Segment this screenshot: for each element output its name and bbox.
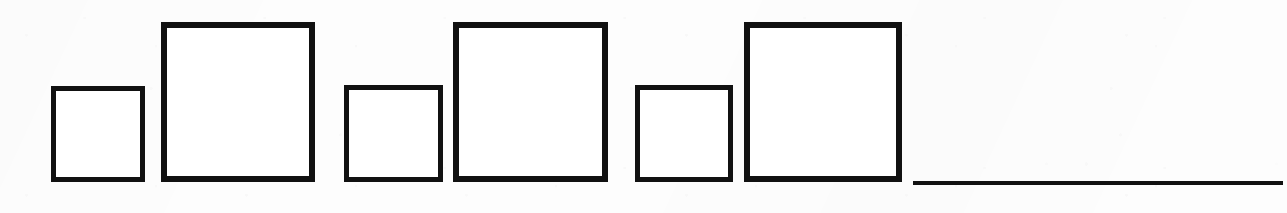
square-3-small: [344, 85, 443, 182]
figure-canvas: [0, 0, 1287, 213]
square-5-small: [635, 85, 733, 182]
horizontal-rule: [913, 181, 1283, 185]
square-6-large: [744, 22, 902, 182]
square-4-large: [453, 22, 608, 182]
square-2-large: [161, 22, 315, 182]
square-1-small: [51, 86, 145, 182]
